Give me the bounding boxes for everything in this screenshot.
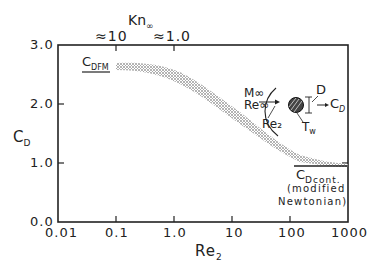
x-axis-sub: 2 — [216, 252, 223, 262]
cdcont-label: CDcont. — [296, 167, 341, 185]
y-tick-1: 1.0 — [30, 155, 54, 170]
inset-cd: CD — [330, 96, 345, 114]
inset-re-inf: Re∞ — [244, 98, 269, 112]
cd-band — [116, 63, 348, 167]
x-tick-100: 100 — [278, 225, 306, 240]
inset-tw: Tw — [302, 120, 316, 136]
y-axis-sub: D — [23, 138, 30, 148]
x-tick-1000: 1000 — [331, 225, 368, 240]
x-tick-1: 1.0 — [163, 225, 187, 240]
cdfm-sub: DFM — [91, 63, 109, 72]
x-tick-0.1: 0.1 — [105, 225, 129, 240]
inset-d: D — [316, 82, 326, 97]
x-tick-0.01: 0.01 — [45, 225, 78, 240]
x-axis-ticks — [116, 216, 290, 222]
x-axis-title: Re2 — [195, 242, 223, 262]
cdcont-note-1: (modified — [287, 183, 346, 194]
x-axis-label: Re — [195, 242, 216, 260]
top-tick-1: ≈10 — [95, 28, 128, 44]
inset-cd-sub: D — [339, 105, 345, 114]
y-axis-title: CD — [13, 128, 30, 148]
inset-tw-sub: w — [309, 127, 316, 136]
inset-re2: Re₂ — [262, 117, 282, 131]
cdcont-note-2: Newtonian) — [278, 196, 347, 207]
top-axis-title: Kn∞ — [128, 12, 154, 31]
y-tick-3: 3.0 — [30, 37, 54, 52]
y-tick-2: 2.0 — [30, 96, 54, 111]
cdfm-label: CDFM — [82, 54, 109, 72]
top-tick-2: ≈1.0 — [153, 28, 191, 44]
top-axis-ticks — [116, 45, 174, 51]
y-axis-label: C — [13, 128, 23, 146]
top-axis-label: Kn — [128, 12, 146, 28]
inset-cd-main: C — [330, 96, 339, 111]
cdcont-main: C — [296, 167, 305, 182]
cdfm-main: C — [82, 54, 91, 69]
x-tick-10: 10 — [225, 225, 244, 240]
